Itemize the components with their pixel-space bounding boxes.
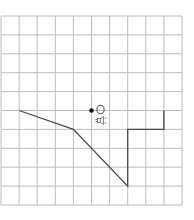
- speaker-icon: [96, 117, 107, 125]
- ellipse-marker: [97, 105, 104, 113]
- marker-dot: [89, 108, 93, 112]
- grid-diagram: [0, 0, 194, 220]
